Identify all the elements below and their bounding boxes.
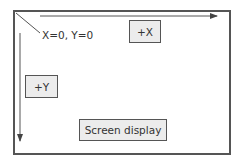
- y-axis-box: +Y: [25, 75, 58, 98]
- x-axis-box: +X: [129, 20, 161, 43]
- origin-pointer-line: [16, 13, 40, 33]
- screen-display-box: Screen display: [79, 119, 167, 141]
- origin-label: X=0, Y=0: [42, 29, 93, 41]
